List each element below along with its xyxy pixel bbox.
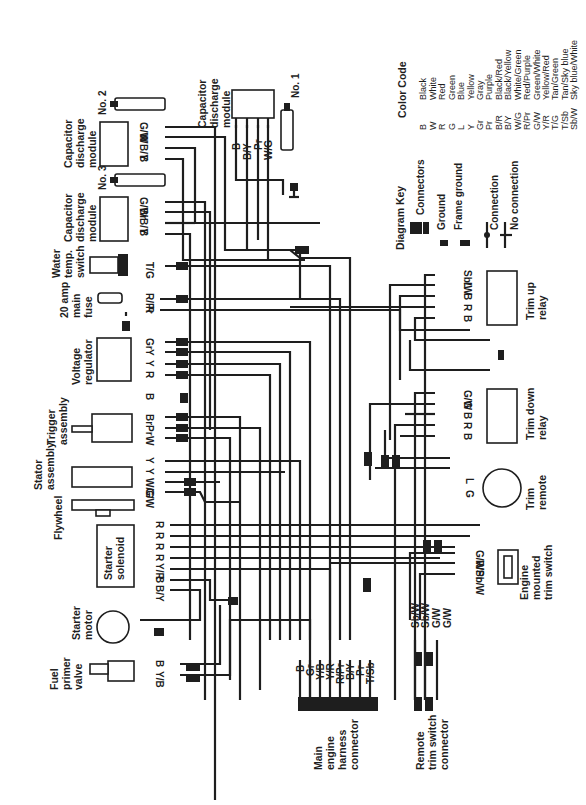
wire-label: B bbox=[138, 155, 149, 162]
color-code: B bbox=[418, 124, 428, 130]
svg-text:Enginemountedtrim switch: Enginemountedtrim switch bbox=[518, 545, 554, 600]
wire-label: Y bbox=[144, 468, 155, 475]
wts-title-3: switch bbox=[74, 245, 86, 278]
wiring-diagram: Capacitordischargemodule No. 1 B B/Y Pr … bbox=[0, 0, 586, 805]
rtc-title-1: Remote bbox=[414, 731, 426, 770]
plug-label-no1: No. 1 bbox=[290, 73, 301, 98]
mhc-title-2: engine bbox=[324, 736, 336, 770]
plug-label-no2: No. 2 bbox=[97, 90, 108, 115]
rtc-title-3: connector bbox=[438, 719, 450, 770]
mhc-title-1: Main bbox=[312, 746, 324, 770]
trim-down-relay: Trim downrelay G/W G B R B bbox=[462, 388, 548, 444]
svg-text:Voltageregulator: Voltageregulator bbox=[70, 339, 94, 385]
svg-text:Statorassembly: Statorassembly bbox=[32, 442, 56, 490]
wire-label: R bbox=[154, 521, 165, 529]
svg-text:Capacitordischargemodule: Capacitordischargemodule bbox=[62, 192, 98, 242]
wire-label: Br bbox=[144, 414, 155, 425]
svg-text:Mainengineharnessconnector: Mainengineharnessconnector bbox=[312, 719, 360, 770]
svg-text:Trim downrelay: Trim downrelay bbox=[524, 388, 548, 441]
svg-text:Trimremote: Trimremote bbox=[524, 475, 548, 510]
wire-label: G/W bbox=[431, 607, 442, 628]
connector-key-icon bbox=[423, 222, 429, 234]
ground-key-icon bbox=[440, 240, 448, 246]
wire-label: W/G bbox=[263, 140, 274, 160]
wire-label: R bbox=[462, 304, 473, 312]
wire-label: R bbox=[144, 306, 155, 314]
spark-plug-icon bbox=[110, 174, 165, 186]
svg-text:20 ampmainfuse: 20 ampmainfuse bbox=[58, 282, 94, 318]
ground-icons bbox=[122, 183, 504, 605]
starter-solenoid: Startersolenoid R R R R Y/R B B/Y bbox=[97, 521, 165, 602]
wire-label: B bbox=[154, 660, 165, 667]
starter-motor: Startermotor bbox=[70, 606, 164, 643]
wire-label: B/Y bbox=[154, 585, 165, 602]
motor-title-1: Starter bbox=[70, 606, 82, 640]
wire-label: Sb/W bbox=[420, 602, 431, 628]
main-fuse: 20 ampmainfuse R/Pr R bbox=[58, 282, 155, 318]
wire-label: B bbox=[462, 412, 473, 419]
ground-icon bbox=[228, 597, 238, 605]
fuse-title-1: 20 amp bbox=[58, 282, 70, 318]
ets-title-3: trim switch bbox=[542, 545, 554, 600]
wts-title-2: temp. bbox=[62, 250, 74, 278]
ets-title-1: Engine bbox=[518, 565, 530, 600]
svg-text:Remotetrim switchconnector: Remotetrim switchconnector bbox=[414, 715, 450, 770]
wire-label: Pr bbox=[144, 425, 155, 436]
svg-text:Capacitordischargemodule: Capacitordischargemodule bbox=[62, 118, 98, 168]
color-code-legend: Color Code B Black W White R Red G Green… bbox=[396, 40, 579, 130]
svg-text:Capacitordischargemodule: Capacitordischargemodule bbox=[196, 78, 232, 128]
wire-label: L bbox=[464, 478, 475, 484]
cdm1-title-2: discharge bbox=[208, 78, 220, 128]
stator-title-1: Stator bbox=[32, 460, 44, 490]
vr-title-2: regulator bbox=[82, 339, 94, 385]
wire-label: R bbox=[144, 371, 155, 379]
fpv-title-2: primer bbox=[60, 657, 72, 690]
cdm3-title-3: module bbox=[86, 205, 98, 242]
frame-ground-key-icon bbox=[460, 240, 470, 246]
color-code: B/Y bbox=[503, 115, 513, 130]
plug-label-no3: No. 3 bbox=[97, 165, 108, 190]
wire-label: W bbox=[138, 134, 149, 144]
wire-label: Y bbox=[144, 349, 155, 356]
cdm1-title-1: Capacitor bbox=[196, 80, 208, 128]
diagram-key-title: Diagram Key bbox=[394, 186, 406, 250]
tdr-title-2: relay bbox=[536, 415, 548, 440]
svg-text:Watertemp.switch: Watertemp.switch bbox=[50, 245, 86, 278]
tur-title-1: Trim up bbox=[524, 282, 536, 320]
color-code: Sb/W bbox=[569, 107, 579, 130]
flywheel-title: Flywheel bbox=[52, 496, 64, 540]
water-temp-switch: Watertemp.switch T/G bbox=[50, 245, 155, 279]
wire-label: R bbox=[462, 422, 473, 430]
trig-title-2: assembly bbox=[57, 397, 69, 445]
wire-label: T/Sb bbox=[365, 662, 376, 684]
spark-plug-icon bbox=[281, 103, 293, 150]
color-code-entries: B Black W White R Red G Green L Blue Y Y… bbox=[418, 40, 579, 130]
ground-icon bbox=[122, 312, 130, 331]
connector-key-icon bbox=[410, 222, 422, 234]
wire-label: G bbox=[462, 401, 473, 409]
color-name: Blue bbox=[456, 82, 466, 100]
wire-label: B bbox=[462, 433, 473, 440]
wire-label: Y bbox=[144, 457, 155, 464]
tr-title-1: Trim bbox=[524, 488, 536, 510]
color-code: R bbox=[437, 123, 447, 130]
spark-plug-icon bbox=[110, 98, 165, 110]
wire-label: W bbox=[144, 436, 155, 446]
stator-assembly: Statorassembly Y Y W/G G/W bbox=[32, 442, 155, 509]
wire-label: L bbox=[462, 282, 473, 288]
wire-label: R bbox=[154, 532, 165, 540]
wire-label: G/W bbox=[144, 488, 155, 509]
stator-title-2: assembly bbox=[44, 442, 56, 490]
wire-label: B bbox=[138, 229, 149, 236]
cdm-no2: Capacitordischargemodule No. 2 G/W W B/Y… bbox=[62, 90, 165, 168]
cdm-no1: Capacitordischargemodule No. 1 B B/Y Pr … bbox=[196, 73, 301, 160]
mhc-title-4: connector bbox=[348, 719, 360, 770]
tur-title-2: relay bbox=[536, 295, 548, 320]
wire-label: Sb/W bbox=[474, 570, 485, 596]
ground-icon bbox=[498, 350, 504, 360]
cdm1-title-3: module bbox=[220, 91, 232, 128]
wire-label: Y bbox=[144, 360, 155, 367]
cdm3-title-1: Capacitor bbox=[62, 194, 74, 242]
trim-remote: Trimremote L G bbox=[464, 469, 548, 510]
fuse-title-3: fuse bbox=[82, 296, 94, 318]
